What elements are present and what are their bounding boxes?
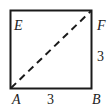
- side-label-ab: 3: [47, 92, 54, 106]
- vertex-label-a: A: [11, 92, 21, 106]
- square-diagram: E F 3 A 3 B: [0, 0, 112, 106]
- vertex-label-f: F: [96, 18, 106, 33]
- dashed-diagonal-af: [11, 11, 91, 88]
- vertex-label-b: B: [92, 92, 101, 106]
- vertex-label-e: E: [13, 18, 23, 33]
- side-label-bf: 3: [97, 49, 104, 64]
